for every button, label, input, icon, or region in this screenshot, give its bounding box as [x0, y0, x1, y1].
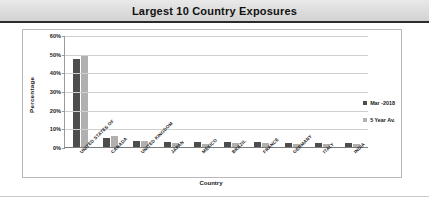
gridline	[65, 129, 368, 130]
x-axis-tick: UNITED STATES OF	[64, 149, 94, 175]
y-axis-title: Percentage	[26, 62, 37, 128]
header-band: Largest 10 Country Exposures	[0, 0, 429, 23]
bar	[224, 142, 231, 147]
gridline	[65, 55, 368, 56]
y-axis-tick-label: 10%	[50, 126, 61, 132]
x-axis-tick: FRANCE	[246, 149, 276, 175]
bar	[81, 56, 88, 147]
y-axis-tick-label: 60%	[50, 33, 61, 39]
x-axis-tick: JAPAN	[155, 149, 185, 175]
y-axis-tick-label: 50%	[50, 52, 61, 58]
legend-item[interactable]: Mar -2018	[363, 100, 395, 106]
chart-page: Largest 10 Country Exposures Percentage …	[0, 0, 429, 210]
bar	[164, 142, 171, 147]
y-axis-tick-labels: 60%50%40%30%20%10%0%	[37, 36, 63, 148]
bar	[254, 142, 261, 147]
y-axis-tick-label: 20%	[50, 108, 61, 114]
x-axis-tick: MEXICO	[186, 149, 216, 175]
x-axis-tick: UNITED KINGDOM	[125, 149, 155, 175]
gridline	[65, 111, 368, 112]
plot-grid	[64, 36, 368, 148]
bar	[133, 141, 140, 147]
chart-frame: Percentage 60%50%40%30%20%10%0% UNITED S…	[22, 29, 402, 178]
y-axis-tick-label: 40%	[50, 70, 61, 76]
x-axis-title: Country	[22, 180, 400, 186]
y-axis-tickmark	[62, 92, 65, 93]
legend-label: 5 Year Av.	[370, 117, 395, 123]
x-axis-tick: INDIA	[338, 149, 368, 175]
plot-area: Percentage 60%50%40%30%20%10%0% UNITED S…	[23, 30, 401, 177]
page-title: Largest 10 Country Exposures	[132, 5, 297, 17]
y-axis-tick-label: 0%	[53, 145, 61, 151]
bar	[345, 143, 352, 147]
x-axis-tick: GERMANY	[277, 149, 307, 175]
x-axis-tick-labels: UNITED STATES OFCANADAUNITED KINGDOMJAPA…	[64, 149, 368, 175]
gridline	[65, 92, 368, 93]
gridline	[65, 36, 368, 37]
y-axis-tickmark	[62, 129, 65, 130]
x-axis-tick: ITALY	[307, 149, 337, 175]
bar	[194, 142, 201, 147]
legend-swatch-dark-icon	[363, 101, 367, 105]
gridline	[65, 73, 368, 74]
y-axis-tickmark	[62, 55, 65, 56]
y-axis-tickmark	[62, 36, 65, 37]
legend-label: Mar -2018	[370, 100, 395, 106]
y-axis-tickmark	[62, 73, 65, 74]
legend-item[interactable]: 5 Year Av.	[363, 117, 395, 123]
bottom-divider	[0, 196, 429, 197]
x-axis-tick: CANADA	[94, 149, 124, 175]
y-axis-tickmark	[62, 111, 65, 112]
bar	[315, 143, 322, 147]
x-axis-tick: BRAZIL	[216, 149, 246, 175]
legend-swatch-light-icon	[363, 118, 367, 122]
y-axis-tick-label: 30%	[50, 89, 61, 95]
bar	[103, 138, 110, 147]
chart-legend: Mar -20185 Year Av.	[363, 100, 395, 123]
bar	[285, 143, 292, 147]
